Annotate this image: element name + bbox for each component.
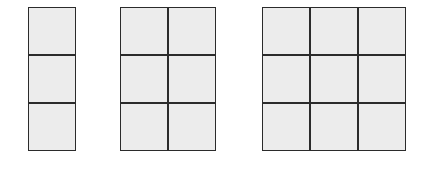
grid-cell [169,56,215,102]
grid-cell [29,8,75,54]
grid-cell [169,8,215,54]
grid-cell [359,8,405,54]
grid-cell [263,8,309,54]
grid-cell [311,56,357,102]
grid-cell [29,56,75,102]
grid-cell [121,8,167,54]
grid-cell [263,104,309,150]
grid-cell [311,104,357,150]
grid-cell [359,56,405,102]
grid-cell [121,104,167,150]
grid-figure-3x3 [262,7,406,151]
grid-figure-1x3 [28,7,76,151]
grid-cell [29,104,75,150]
grid-cell [359,104,405,150]
grid-cell [121,56,167,102]
grid-cell [311,8,357,54]
grid-cell [263,56,309,102]
grid-cell [169,104,215,150]
grid-figure-2x3 [120,7,216,151]
diagram-canvas [0,0,422,183]
